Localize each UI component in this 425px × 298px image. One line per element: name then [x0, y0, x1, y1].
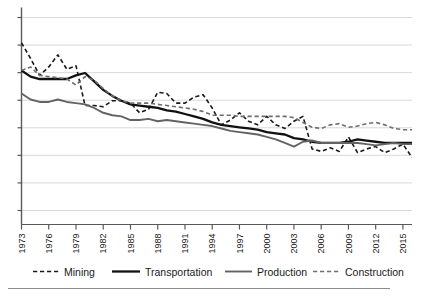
x-tick-label: 2003	[289, 234, 299, 254]
x-tick-label: 2000	[262, 234, 272, 254]
x-tick-label: 1985	[126, 234, 136, 254]
series-line-construction	[22, 67, 413, 130]
x-tick-label: 1973	[17, 234, 27, 254]
x-tick-label: 2006	[316, 234, 326, 254]
x-tick-label: 2012	[371, 234, 381, 254]
x-tick-label: 1976	[44, 234, 54, 254]
x-axis	[22, 225, 413, 230]
x-tick-label: 1997	[235, 234, 245, 254]
gridlines	[22, 18, 413, 211]
legend-label-transportation: Transportation	[145, 266, 212, 278]
x-tick-label: 2015	[398, 234, 408, 254]
legend-label-production: Production	[257, 266, 307, 278]
chart-legend: MiningTransportationProductionConstructi…	[33, 266, 404, 278]
x-tick-label: 1982	[98, 234, 108, 254]
x-tick-label: 1988	[153, 234, 163, 254]
x-tick-label: 1994	[207, 234, 217, 254]
x-tick-label: 1979	[71, 234, 81, 254]
x-tick-labels: 1973197619791982198519881991199419972000…	[17, 234, 408, 254]
line-chart: 1973197619791982198519881991199419972000…	[0, 0, 425, 298]
series-line-production	[22, 93, 413, 146]
chart-canvas: 1973197619791982198519881991199419972000…	[0, 0, 425, 298]
x-tick-label: 1991	[180, 234, 190, 254]
x-tick-label: 2009	[344, 234, 354, 254]
legend-label-mining: Mining	[64, 266, 95, 278]
legend-label-construction: Construction	[345, 266, 404, 278]
y-axis	[18, 8, 22, 225]
